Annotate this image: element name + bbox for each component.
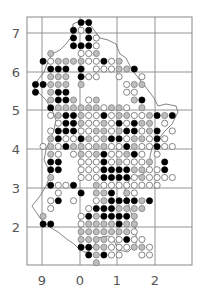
black-dot (131, 120, 137, 126)
open-dot (131, 159, 137, 165)
grey-dot (131, 97, 137, 103)
black-dot (70, 27, 76, 33)
open-dot (131, 89, 137, 95)
black-dot (40, 81, 46, 87)
grey-dot (101, 229, 107, 235)
grey-dot (86, 105, 92, 111)
grey-dot (101, 128, 107, 134)
grey-dot (70, 105, 76, 111)
black-dot (101, 58, 107, 64)
black-dot (131, 151, 137, 157)
grey-dot (131, 136, 137, 142)
grey-dot (78, 151, 84, 157)
black-dot (101, 112, 107, 118)
black-dot (86, 252, 92, 258)
open-dot (48, 198, 54, 204)
grey-dot (93, 229, 99, 235)
black-dot (63, 128, 69, 134)
black-dot (70, 35, 76, 41)
open-dot (146, 167, 152, 173)
open-dot (116, 182, 122, 188)
open-dot (78, 221, 84, 227)
grey-dot (78, 229, 84, 235)
black-dot (70, 112, 76, 118)
open-dot (86, 58, 92, 64)
black-dot (154, 143, 160, 149)
open-dot (124, 244, 130, 250)
open-dot (108, 112, 114, 118)
x-axis-label: 0 (76, 273, 84, 288)
black-dot (108, 205, 114, 211)
black-dot (55, 97, 61, 103)
distribution-dots (32, 19, 175, 265)
black-dot (86, 35, 92, 41)
black-dot (70, 128, 76, 134)
open-dot (93, 43, 99, 49)
grey-dot (116, 205, 122, 211)
grey-dot (101, 244, 107, 250)
black-dot (63, 143, 69, 149)
black-dot (70, 120, 76, 126)
black-dot (63, 66, 69, 72)
open-dot (48, 58, 54, 64)
open-dot (116, 143, 122, 149)
grey-dot (93, 128, 99, 134)
open-dot (169, 174, 175, 180)
black-dot (162, 159, 168, 165)
y-axis-label: 4 (12, 142, 20, 157)
black-dot (131, 198, 137, 204)
grey-dot (48, 174, 54, 180)
black-dot (101, 167, 107, 173)
grey-dot (108, 221, 114, 227)
black-dot (108, 198, 114, 204)
black-dot (55, 136, 61, 142)
black-dot (55, 159, 61, 165)
black-dot (116, 213, 122, 219)
black-dot (124, 167, 130, 173)
open-dot (86, 74, 92, 80)
grey-dot (55, 105, 61, 111)
grey-dot (40, 213, 46, 219)
open-dot (93, 74, 99, 80)
black-dot (101, 151, 107, 157)
grey-dot (48, 89, 54, 95)
open-dot (124, 89, 130, 95)
open-dot (70, 151, 76, 157)
grey-dot (55, 81, 61, 87)
black-dot (78, 74, 84, 80)
black-dot (40, 58, 46, 64)
open-dot (108, 143, 114, 149)
open-dot (146, 143, 152, 149)
black-dot (78, 136, 84, 142)
grey-dot (101, 136, 107, 142)
black-dot (32, 89, 38, 95)
open-dot (48, 205, 54, 211)
grey-dot (146, 159, 152, 165)
open-dot (93, 159, 99, 165)
open-dot (124, 105, 130, 111)
grey-dot (116, 229, 122, 235)
black-dot (101, 205, 107, 211)
open-dot (55, 151, 61, 157)
open-dot (55, 182, 61, 188)
grey-dot (78, 112, 84, 118)
open-dot (78, 174, 84, 180)
grey-dot (131, 167, 137, 173)
open-dot (55, 120, 61, 126)
open-dot (154, 167, 160, 173)
open-dot (101, 66, 107, 72)
black-dot (124, 143, 130, 149)
open-dot (131, 174, 137, 180)
black-dot (146, 198, 152, 204)
grey-dot (124, 205, 130, 211)
black-dot (116, 174, 122, 180)
black-dot (78, 190, 84, 196)
y-axis-label: 5 (12, 103, 20, 118)
black-dot (101, 252, 107, 258)
open-dot (154, 174, 160, 180)
grey-dot (131, 205, 137, 211)
grey-dot (93, 213, 99, 219)
grey-dot (93, 50, 99, 56)
grey-dot (48, 74, 54, 80)
black-dot (55, 167, 61, 173)
